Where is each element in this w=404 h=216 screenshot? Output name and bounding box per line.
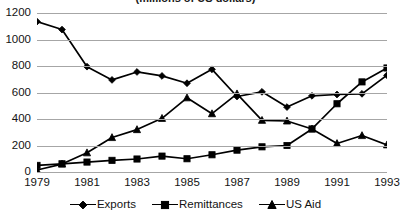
data-point-marker bbox=[109, 157, 115, 163]
x-axis-tick-label: 1987 bbox=[215, 176, 259, 189]
x-axis-tick-label: 1993 bbox=[365, 176, 404, 189]
gridline bbox=[37, 13, 387, 14]
data-point-marker bbox=[184, 80, 191, 87]
gridline bbox=[37, 146, 387, 147]
data-point-marker bbox=[159, 153, 165, 159]
x-axis-line bbox=[37, 172, 387, 173]
legend-label: Remittances bbox=[179, 198, 243, 211]
plot-area bbox=[37, 13, 387, 172]
y-axis-tick-label: 400 bbox=[0, 113, 31, 125]
data-point-marker bbox=[234, 147, 240, 153]
gridline bbox=[37, 40, 387, 41]
data-point-marker bbox=[159, 73, 166, 80]
y-axis-tick-label: 1000 bbox=[0, 34, 31, 46]
x-axis-tick-label: 1985 bbox=[165, 176, 209, 189]
data-point-marker bbox=[83, 149, 90, 156]
data-point-marker bbox=[109, 77, 116, 84]
data-point-marker bbox=[183, 94, 190, 101]
data-point-marker bbox=[358, 132, 365, 139]
legend-label: Exports bbox=[97, 198, 136, 211]
y-axis-tick-label: 1200 bbox=[0, 7, 31, 19]
data-point-marker bbox=[37, 18, 40, 25]
x-axis-tick-label: 1983 bbox=[115, 176, 159, 189]
series-exports bbox=[37, 18, 387, 110]
data-point-marker bbox=[209, 152, 215, 158]
x-axis-labels: 19791981198319851987198919911993 bbox=[0, 176, 391, 192]
data-point-marker bbox=[359, 79, 365, 85]
legend-marker bbox=[268, 200, 276, 208]
square-marker-icon bbox=[152, 199, 178, 210]
y-axis-tick-label: 200 bbox=[0, 140, 31, 152]
chart-legend: ExportsRemittancesUS Aid bbox=[0, 195, 391, 213]
legend-label: US Aid bbox=[286, 198, 321, 211]
legend-marker bbox=[79, 201, 87, 209]
x-axis-tick-label: 1979 bbox=[15, 176, 59, 189]
x-axis-tick-label: 1991 bbox=[315, 176, 359, 189]
data-point-marker bbox=[134, 69, 141, 76]
y-axis-tick-label: 800 bbox=[0, 60, 31, 72]
gridline bbox=[37, 66, 387, 67]
legend-item-exports[interactable]: Exports bbox=[70, 198, 136, 211]
gridline bbox=[37, 93, 387, 94]
legend-item-remittances[interactable]: Remittances bbox=[152, 198, 243, 211]
diamond-marker-icon bbox=[70, 199, 96, 210]
x-axis-tick-label: 1981 bbox=[65, 176, 109, 189]
data-point-marker bbox=[184, 156, 190, 162]
data-point-marker bbox=[334, 101, 340, 107]
x-axis-tick-label: 1989 bbox=[265, 176, 309, 189]
legend-item-us-aid[interactable]: US Aid bbox=[259, 198, 321, 211]
triangle-marker-icon bbox=[259, 199, 285, 210]
data-point-marker bbox=[84, 159, 90, 165]
data-point-marker bbox=[134, 156, 140, 162]
gridline bbox=[37, 119, 387, 120]
y-axis-tick-label: 600 bbox=[0, 87, 31, 99]
legend-marker bbox=[161, 201, 168, 208]
chart-title: (millions of US dollars) bbox=[0, 0, 391, 5]
